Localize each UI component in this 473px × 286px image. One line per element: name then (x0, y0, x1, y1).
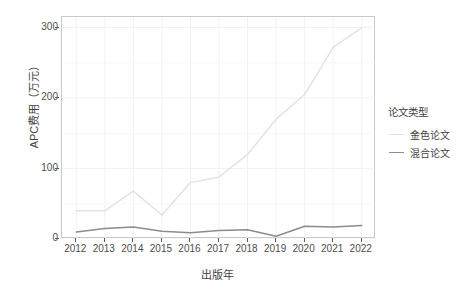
y-tick-label: 100 (28, 163, 58, 173)
legend: 论文类型 金色论文混合论文 (388, 104, 473, 163)
x-tick-mark (361, 238, 362, 242)
y-tick-mark (55, 97, 59, 98)
legend-item-label: 混合论文 (410, 145, 450, 160)
legend-line-icon (388, 146, 405, 159)
x-tick-mark (75, 238, 76, 242)
legend-item-1[interactable]: 金色论文 (388, 127, 473, 142)
x-tick-mark (189, 238, 190, 242)
x-axis-title: 出版年 (58, 266, 376, 282)
chart-container: APC费用（万元） 0100200300 2012201320142015201… (0, 0, 473, 286)
x-tick-mark (132, 238, 133, 242)
y-tick-mark (55, 238, 59, 239)
x-tick-label: 2022 (343, 243, 379, 254)
y-tick-mark (55, 27, 59, 28)
legend-title: 论文类型 (388, 104, 473, 119)
x-tick-mark (332, 238, 333, 242)
y-tick-label: 300 (28, 22, 58, 32)
x-tick-mark (275, 238, 276, 242)
legend-line-icon (388, 128, 405, 141)
x-tick-mark (161, 238, 162, 242)
legend-items: 金色论文混合论文 (388, 127, 473, 160)
y-tick-mark (55, 168, 59, 169)
legend-item-2[interactable]: 混合论文 (388, 145, 473, 160)
y-tick-label: 200 (28, 92, 58, 102)
plot-panel (61, 16, 375, 238)
plot-area (62, 17, 376, 239)
x-tick-mark (247, 238, 248, 242)
x-tick-mark (218, 238, 219, 242)
x-tick-mark (304, 238, 305, 242)
legend-item-label: 金色论文 (410, 127, 450, 142)
y-axis-tick-labels: 0100200300 (20, 0, 58, 286)
x-tick-mark (104, 238, 105, 242)
y-tick-label: 0 (28, 233, 58, 243)
